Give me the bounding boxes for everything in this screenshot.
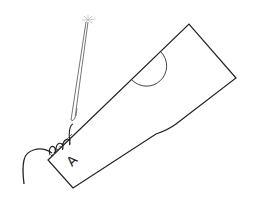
semicircle-notch [132, 52, 167, 86]
piece-label: A [64, 152, 81, 169]
needle-sparkle-icon [82, 15, 95, 23]
thread-loops [49, 124, 73, 155]
sewing-diagram: A [0, 0, 254, 198]
thread-tail [23, 149, 52, 184]
needle [71, 22, 88, 121]
